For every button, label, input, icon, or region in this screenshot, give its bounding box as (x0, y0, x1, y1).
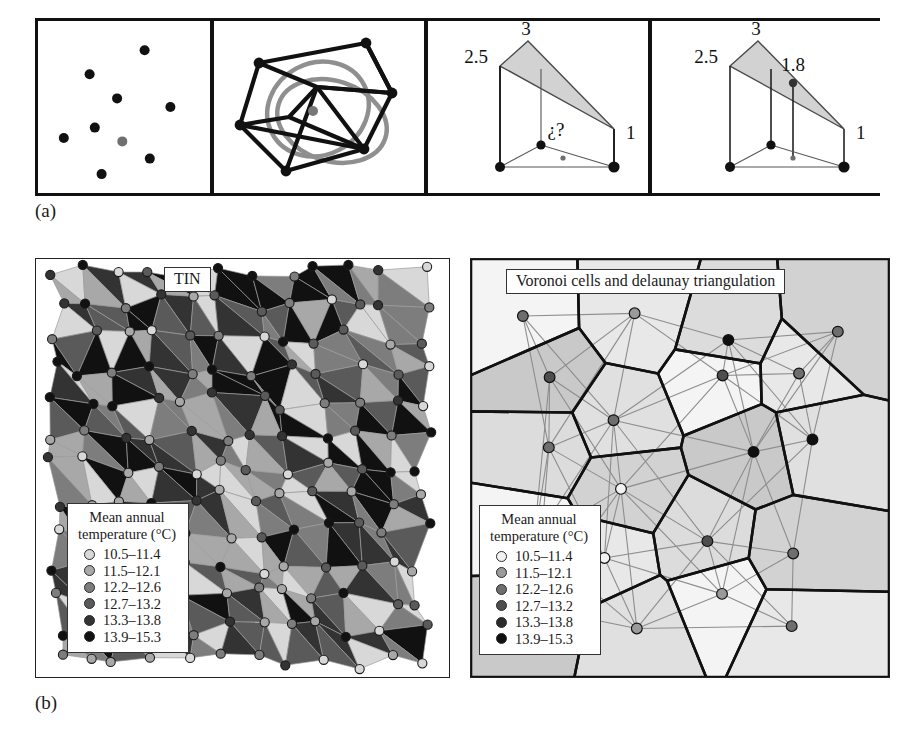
tin-node (339, 325, 348, 334)
voronoi-legend: Mean annual temperature (°C) 10.5–11.411… (479, 505, 601, 655)
tin-node (143, 267, 152, 276)
tin-node (114, 267, 123, 276)
voronoi-legend-rows: 10.5–11.411.5–12.112.2–12.612.7–13.213.3… (496, 548, 588, 647)
sample-point (112, 93, 122, 103)
tin-facet-unknown-svg: 3 2.5 1 ¿? (428, 21, 648, 193)
panel-delaunay-circumcircle (214, 21, 424, 193)
voronoi-seed-point (832, 326, 843, 337)
tin-node (341, 632, 350, 641)
legend-swatch-circle-icon (496, 584, 507, 595)
tin-node (80, 299, 89, 308)
tin-node (189, 292, 198, 301)
tin-node (78, 260, 87, 269)
facet-label-query: ¿? (548, 119, 565, 140)
tin-title-label: TIN (164, 267, 211, 292)
unknown-sample-point (560, 155, 565, 160)
legend-row: 10.5–11.4 (496, 548, 588, 565)
voronoi-seed-point (788, 548, 799, 559)
tin-node (92, 326, 101, 335)
tin-facet-interpolated-svg: 3 2.5 1 1.8 (652, 21, 881, 193)
tin-node (225, 617, 234, 626)
tin-node (426, 519, 435, 528)
legend-row: 10.5–11.4 (84, 546, 176, 563)
tin-node (260, 332, 269, 341)
legend-row: 11.5–12.1 (84, 563, 176, 580)
tin-node (324, 458, 333, 467)
sample-point (97, 169, 107, 179)
legend-swatch-circle-icon (84, 582, 95, 593)
tin-node (251, 497, 260, 506)
voronoi-seed-point (717, 370, 728, 381)
facet-label-2-5: 2.5 (694, 46, 718, 67)
tin-node (308, 262, 317, 271)
tin-node (227, 534, 236, 543)
tin-node (60, 299, 69, 308)
tin-node (309, 339, 318, 348)
interpolated-point-base (790, 155, 795, 160)
voronoi-title-label: Voronoi cells and delaunay triangulation (506, 269, 785, 294)
sample-point (59, 133, 69, 143)
tin-node (387, 431, 396, 440)
tin-node (373, 301, 382, 310)
tin-node (375, 626, 384, 635)
tin-node (107, 368, 116, 377)
voronoi-legend-title: Mean annual temperature (°C) (490, 511, 588, 545)
tin-node (287, 360, 296, 369)
query-point (308, 106, 318, 116)
tin-node (222, 589, 231, 598)
voronoi-map-panel: Voronoi cells and delaunay triangulation… (470, 258, 890, 678)
tin-node (281, 661, 290, 670)
tin-node (319, 655, 328, 664)
tin-node (283, 470, 292, 479)
subfigure-label-b: (b) (35, 692, 57, 714)
legend-row: 13.3–13.8 (84, 612, 176, 629)
delaunay-circumcircle-svg (214, 21, 424, 193)
tin-node (257, 307, 266, 316)
voronoi-seed-point (544, 372, 555, 383)
tin-node (80, 426, 89, 435)
tin-node (188, 370, 197, 379)
tin-node (339, 588, 348, 597)
legend-label: 11.5–12.1 (515, 566, 572, 581)
subfigure-label-a: (a) (35, 200, 56, 222)
legend-swatch-circle-icon (496, 600, 507, 611)
facet-label-1: 1 (856, 122, 866, 143)
legend-label: 13.9–15.3 (515, 632, 573, 647)
tin-node (154, 462, 163, 471)
sample-point (140, 45, 150, 55)
legend-swatch-circle-icon (84, 615, 95, 626)
tin-node (155, 393, 164, 402)
tin-legend-title-line1: Mean annual (78, 509, 176, 526)
tin-node (248, 271, 257, 280)
tin-node (247, 372, 256, 381)
legend-row: 12.7–13.2 (84, 596, 176, 613)
tin-node (241, 466, 250, 475)
tin-node (145, 653, 154, 662)
tin-node (322, 563, 331, 572)
tin-node (207, 388, 216, 397)
legend-row: 13.9–15.3 (496, 631, 588, 648)
sample-point (117, 136, 127, 146)
interpolated-point-top (789, 79, 797, 87)
tin-node (275, 405, 284, 414)
tin-node (419, 402, 428, 411)
tin-node (216, 562, 225, 571)
legend-label: 12.7–13.2 (103, 597, 161, 612)
tin-legend-title-line2: temperature (°C) (78, 526, 176, 543)
voronoi-seed-point (786, 621, 797, 632)
voronoi-seed-point (631, 623, 642, 634)
tin-node (245, 430, 254, 439)
tin-node (108, 402, 117, 411)
tin-node (320, 399, 329, 408)
tin-node (187, 426, 196, 435)
tin-node (393, 396, 402, 405)
tin-node (323, 434, 332, 443)
facet-label-2-5: 2.5 (464, 46, 488, 67)
legend-swatch-circle-icon (84, 598, 95, 609)
tin-node (327, 295, 336, 304)
legend-swatch-circle-icon (496, 633, 507, 644)
tin-node (46, 435, 55, 444)
legend-label: 12.2–12.6 (103, 580, 161, 595)
tin-node (410, 601, 419, 610)
tin-node (358, 360, 367, 369)
